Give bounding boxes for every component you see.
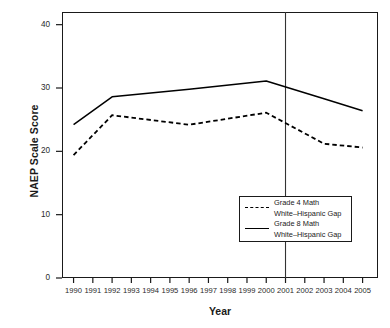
y-tick-label: 20 bbox=[24, 146, 50, 155]
chart-legend: Grade 4 Math White–Hispanic Gap Grade 8 … bbox=[239, 196, 352, 242]
legend-swatch-dashed-icon bbox=[245, 207, 269, 210]
legend-label-grade-8: Grade 8 Math White–Hispanic Gap bbox=[274, 219, 341, 240]
x-tick-marks bbox=[74, 278, 363, 283]
y-tick-label: 0 bbox=[24, 273, 50, 282]
x-tick-label: 2005 bbox=[350, 286, 376, 295]
legend-entry-grade-4: Grade 4 Math White–Hispanic Gap bbox=[245, 199, 349, 220]
y-tick-label: 10 bbox=[24, 210, 50, 219]
naep-scale-score-line-chart: NAEP Scale Score 010203040 1990199119921… bbox=[0, 0, 390, 328]
legend-label-grade-8-line1: Grade 8 Math bbox=[274, 219, 341, 230]
legend-label-grade-4-line2: White–Hispanic Gap bbox=[274, 209, 341, 220]
legend-label-grade-4-line1: Grade 4 Math bbox=[274, 198, 341, 209]
y-tick-label: 40 bbox=[24, 20, 50, 29]
legend-entry-grade-8: Grade 8 Math White–Hispanic Gap bbox=[245, 220, 349, 241]
legend-label-grade-4: Grade 4 Math White–Hispanic Gap bbox=[274, 198, 341, 219]
legend-label-grade-8-line2: White–Hispanic Gap bbox=[274, 230, 341, 241]
x-axis-title: Year bbox=[62, 305, 378, 317]
legend-swatch-solid-icon bbox=[245, 228, 269, 231]
y-tick-label: 30 bbox=[24, 83, 50, 92]
